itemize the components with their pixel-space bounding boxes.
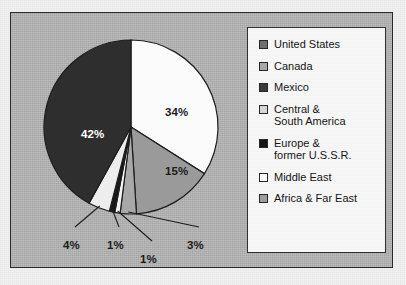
pie-chart-svg [11, 13, 251, 269]
chart-legend: United StatesCanadaMexicoCentral & South… [247, 27, 386, 253]
legend-swatch-icon [259, 62, 268, 71]
legend-item[interactable]: Europe & former U.S.S.R. [259, 137, 385, 162]
legend-item-label: Middle East [274, 171, 331, 184]
legend-item-label: Europe & former U.S.S.R. [274, 137, 352, 162]
pie-slice-value-label: 15% [165, 165, 188, 177]
legend-item-label: United States [274, 38, 340, 51]
legend-item-label: Mexico [274, 81, 309, 94]
pie-slice-value-label: 42% [81, 128, 104, 140]
pie-chart: 34%15%3%1%1%4%42% [11, 13, 251, 269]
chart-frame: 34%15%3%1%1%4%42% United StatesCanadaMex… [10, 12, 393, 268]
legend-item[interactable]: Mexico [259, 81, 385, 94]
legend-item-list: United StatesCanadaMexicoCentral & South… [259, 38, 385, 205]
legend-item[interactable]: Middle East [259, 171, 385, 184]
legend-swatch-icon [259, 139, 268, 148]
leader-line [75, 206, 100, 227]
legend-swatch-icon [259, 40, 268, 49]
legend-swatch-icon [259, 173, 268, 182]
legend-item-label: Africa & Far East [274, 192, 357, 205]
legend-item-label: Central & South America [274, 103, 346, 128]
legend-item-label: Canada [274, 60, 313, 73]
pie-slice-value-label: 4% [63, 239, 80, 251]
legend-swatch-icon [259, 105, 268, 114]
legend-swatch-icon [259, 194, 268, 203]
leader-line [128, 212, 199, 227]
pie-slice-value-label: 1% [140, 253, 157, 265]
legend-item[interactable]: Africa & Far East [259, 192, 385, 205]
legend-item[interactable]: United States [259, 38, 385, 51]
pie-slice-value-label: 3% [187, 239, 204, 251]
legend-swatch-icon [259, 83, 268, 92]
legend-item[interactable]: Central & South America [259, 103, 385, 128]
legend-item[interactable]: Canada [259, 60, 385, 73]
pie-slice-value-label: 34% [165, 106, 188, 118]
pie-slice-value-label: 1% [107, 239, 124, 251]
